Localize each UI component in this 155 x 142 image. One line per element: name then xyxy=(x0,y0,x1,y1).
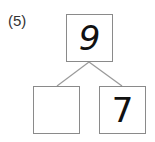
known-part: 7 xyxy=(112,90,134,130)
whole-number: 9 xyxy=(79,18,101,58)
answer-box[interactable] xyxy=(33,86,80,134)
known-part-box: 7 xyxy=(99,86,146,134)
whole-number-box: 9 xyxy=(66,14,113,62)
